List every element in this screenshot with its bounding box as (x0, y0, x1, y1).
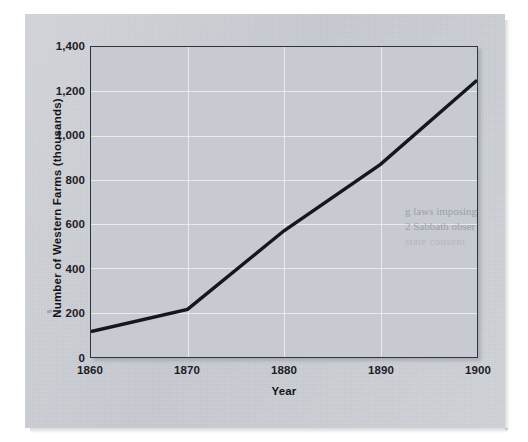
x-tick-1870: 1870 (152, 364, 222, 376)
scanned-page-root: 1,400 1,200 1,000 800 600 400 200 0 Numb… (0, 0, 528, 442)
y-tick-0: 0 (29, 352, 85, 364)
chart-figure: 1,400 1,200 1,000 800 600 400 200 0 Numb… (25, 14, 505, 428)
x-tick-1860: 1860 (55, 364, 125, 376)
plot-area (90, 46, 478, 358)
paper-sheet: 1,400 1,200 1,000 800 600 400 200 0 Numb… (25, 14, 505, 428)
y-axis-title: Number of Western Farms (thousands) (51, 83, 63, 333)
y-tick-1400: 1,400 (29, 40, 85, 52)
plot-inner (91, 47, 477, 357)
x-tick-1900: 1900 (443, 364, 513, 376)
x-axis-ticks: 1860 1870 1880 1890 1900 (90, 364, 478, 382)
x-tick-1890: 1890 (346, 364, 416, 376)
series-line-western-farms (91, 47, 477, 357)
page-shadow-right (505, 20, 510, 430)
x-axis-title: Year (90, 385, 478, 397)
x-tick-1880: 1880 (249, 364, 319, 376)
page-shadow-bottom (30, 428, 508, 433)
